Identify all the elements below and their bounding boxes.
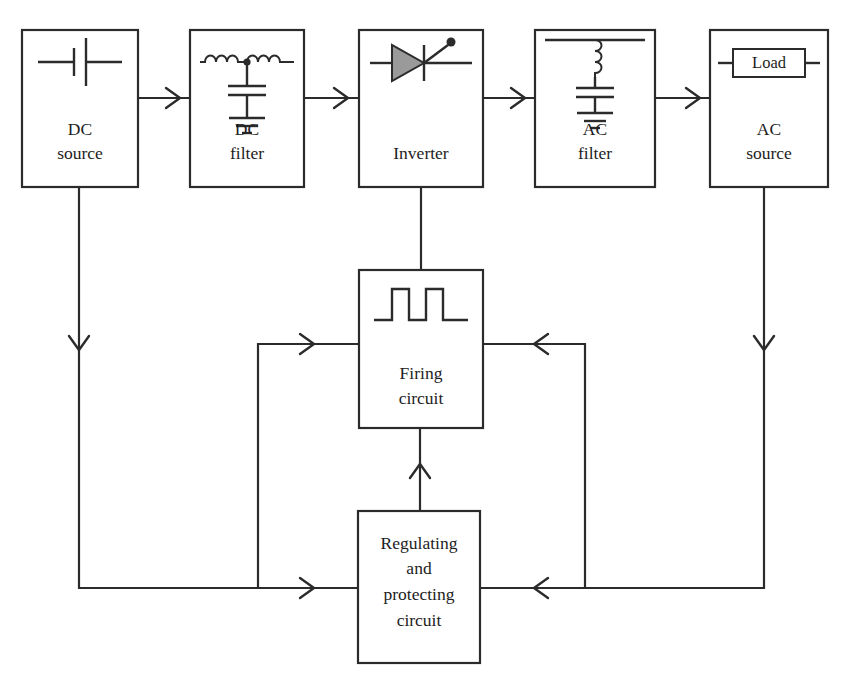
block-label-regulating-line2: and	[406, 558, 432, 578]
connection-dc-source-feedback	[69, 187, 358, 598]
block-diagram-canvas: DC source DC filter	[0, 0, 842, 691]
block-label-firing-line2: circuit	[399, 388, 444, 408]
block-ac-source[interactable]: Load AC source	[710, 30, 828, 187]
block-label-ac-source-line2: source	[746, 143, 792, 163]
block-label-firing-line1: Firing	[400, 363, 443, 383]
block-dc-filter[interactable]: DC filter	[190, 30, 304, 187]
block-regulating-circuit[interactable]: Regulating and protecting circuit	[358, 511, 480, 663]
block-label-dc-source-line2: source	[57, 143, 103, 163]
block-label-ac-filter-line1: AC	[583, 119, 607, 139]
connection-regulating-left-branch-to-firing	[258, 334, 359, 588]
connection-dc-filter-to-inverter	[304, 88, 359, 108]
block-label-regulating-line3: protecting	[384, 584, 455, 604]
block-label-regulating-line4: circuit	[397, 610, 442, 630]
block-label-ac-source-line1: AC	[757, 119, 781, 139]
connection-regulating-right-branch-to-firing	[483, 334, 585, 588]
block-firing-circuit[interactable]: Firing circuit	[359, 270, 483, 428]
block-diagram-svg: DC source DC filter	[0, 0, 842, 691]
block-label-dc-source-line1: DC	[68, 119, 92, 139]
block-dc-source[interactable]: DC source	[22, 30, 138, 187]
connection-inverter-to-ac-filter	[483, 88, 535, 108]
connection-ac-filter-to-ac-source	[655, 88, 710, 108]
block-label-regulating-line1: Regulating	[381, 533, 458, 553]
block-inverter[interactable]: Inverter	[359, 30, 483, 187]
block-ac-filter[interactable]: AC filter	[535, 30, 655, 187]
block-label-ac-source-load: Load	[752, 53, 787, 72]
connection-regulating-to-firing	[410, 428, 430, 511]
block-label-dc-filter-line1: DC	[235, 119, 259, 139]
block-label-ac-filter-line2: filter	[578, 143, 612, 163]
block-label-inverter: Inverter	[393, 143, 449, 163]
connection-ac-source-feedback	[480, 187, 774, 598]
block-label-dc-filter-line2: filter	[230, 143, 264, 163]
connection-dc-source-to-dc-filter	[138, 88, 190, 108]
